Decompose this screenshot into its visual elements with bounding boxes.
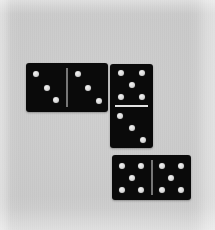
pip — [75, 71, 81, 77]
pip — [85, 85, 91, 91]
pip — [129, 125, 135, 131]
domino-photo-scene — [0, 0, 215, 230]
pip — [118, 70, 124, 76]
pip — [33, 71, 39, 77]
pip — [138, 163, 144, 169]
pip — [159, 163, 165, 169]
bottom-horizontal-domino-left-half — [112, 155, 152, 200]
middle-vertical-domino — [110, 64, 153, 148]
left-horizontal-domino-right-half — [67, 63, 108, 112]
pip — [129, 175, 135, 181]
pip — [139, 94, 145, 100]
bottom-horizontal-domino-divider — [151, 160, 152, 195]
pip — [53, 97, 59, 103]
pip — [168, 175, 174, 181]
left-horizontal-domino-left-half — [26, 63, 67, 112]
pip — [44, 85, 50, 91]
pip — [96, 98, 102, 104]
pip — [178, 187, 184, 193]
left-horizontal-domino-divider — [67, 68, 68, 107]
pip — [119, 163, 125, 169]
pip — [119, 187, 125, 193]
pip — [139, 70, 145, 76]
pip — [159, 187, 165, 193]
left-horizontal-domino — [26, 63, 108, 112]
pip — [140, 137, 146, 143]
middle-vertical-domino-top-half — [110, 64, 153, 106]
pip — [138, 187, 144, 193]
pip — [178, 163, 184, 169]
bottom-horizontal-domino-right-half — [152, 155, 192, 200]
middle-vertical-domino-divider — [115, 105, 148, 107]
pip — [129, 82, 135, 88]
middle-vertical-domino-bottom-half — [110, 106, 153, 148]
pip — [117, 113, 123, 119]
bottom-horizontal-domino — [112, 155, 191, 200]
pip — [118, 94, 124, 100]
